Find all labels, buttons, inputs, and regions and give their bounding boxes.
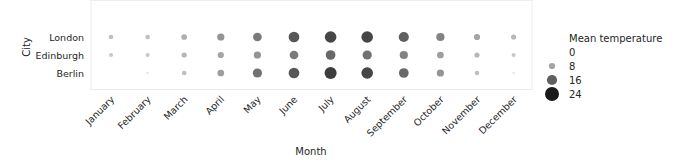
data-point-berlin-november — [475, 71, 480, 76]
x-tick-label-october: October — [411, 94, 446, 129]
data-point-berlin-june — [289, 68, 300, 79]
x-tick-label-may: May — [241, 93, 263, 115]
bubble-chart: LondonEdinburghBerlin JanuaryFebruaryMar… — [0, 0, 682, 164]
data-point-edinburgh-february — [146, 53, 150, 57]
x-tick-label-december: December — [476, 94, 519, 137]
data-point-london-january — [109, 35, 114, 40]
x-tick-label-august: August — [341, 93, 372, 124]
data-point-berlin-march — [182, 71, 187, 76]
data-point-edinburgh-december — [512, 53, 516, 57]
data-point-edinburgh-august — [363, 50, 372, 59]
data-point-edinburgh-november — [474, 52, 479, 57]
data-point-london-october — [436, 33, 444, 41]
x-tick-label-january: January — [82, 93, 116, 127]
legend-label-24: 24 — [569, 89, 582, 100]
data-point-edinburgh-october — [437, 52, 444, 59]
data-point-berlin-august — [361, 67, 373, 79]
data-point-berlin-february — [146, 72, 148, 74]
x-tick-label-april: April — [203, 94, 226, 117]
data-point-edinburgh-june — [290, 51, 299, 60]
data-point-london-june — [289, 32, 300, 43]
legend-label-8: 8 — [569, 61, 575, 72]
y-tick-label-london: London — [49, 32, 84, 43]
y-tick-label-berlin: Berlin — [56, 68, 84, 79]
legend-title: Mean temperature — [569, 33, 662, 44]
legend-entry-0: 0 — [569, 47, 575, 58]
legend-entry-24: 24 — [545, 87, 582, 101]
data-point-edinburgh-march — [182, 52, 187, 57]
x-axis-tick-labels: JanuaryFebruaryMarchAprilMayJuneJulyAugu… — [82, 93, 519, 138]
data-point-london-april — [217, 33, 224, 40]
chart-canvas: LondonEdinburghBerlin JanuaryFebruaryMar… — [0, 0, 682, 164]
data-point-london-may — [253, 33, 262, 42]
data-point-london-september — [399, 32, 409, 42]
x-axis-title: Month — [295, 146, 326, 157]
data-point-london-february — [145, 35, 150, 40]
data-point-london-august — [361, 31, 373, 43]
legend-entries: 081624 — [545, 47, 582, 101]
data-points — [109, 31, 516, 79]
data-point-berlin-july — [325, 67, 337, 79]
data-point-edinburgh-may — [254, 51, 261, 58]
data-point-london-march — [181, 34, 187, 40]
legend-marker-16 — [547, 75, 557, 85]
data-point-london-december — [511, 34, 516, 39]
legend-entry-8: 8 — [549, 61, 575, 72]
x-tick-label-february: February — [115, 93, 153, 131]
plot-area-frame — [91, 1, 532, 90]
data-point-berlin-october — [437, 69, 444, 76]
data-point-edinburgh-september — [400, 51, 408, 59]
y-tick-label-edinburgh: Edinburgh — [35, 50, 84, 61]
data-point-berlin-december — [512, 72, 514, 74]
legend-label-0: 0 — [569, 47, 575, 58]
legend-label-16: 16 — [569, 75, 582, 86]
data-point-edinburgh-january — [109, 53, 113, 57]
data-point-london-july — [325, 31, 337, 43]
x-tick-label-june: June — [276, 94, 299, 117]
y-axis-tick-labels: LondonEdinburghBerlin — [35, 32, 84, 79]
legend-marker-8 — [549, 63, 555, 69]
data-point-edinburgh-july — [326, 50, 336, 60]
data-point-london-november — [474, 34, 480, 40]
legend: Mean temperature 081624 — [545, 33, 662, 101]
data-point-berlin-september — [399, 68, 409, 78]
x-tick-label-march: March — [161, 94, 189, 122]
data-point-edinburgh-april — [218, 52, 224, 58]
data-point-berlin-april — [217, 70, 224, 77]
legend-marker-24 — [545, 87, 559, 101]
data-point-berlin-may — [253, 68, 262, 77]
legend-entry-16: 16 — [547, 75, 582, 86]
x-tick-label-july: July — [315, 93, 336, 114]
y-axis-title: City — [21, 37, 32, 57]
x-tick-label-november: November — [440, 94, 483, 137]
